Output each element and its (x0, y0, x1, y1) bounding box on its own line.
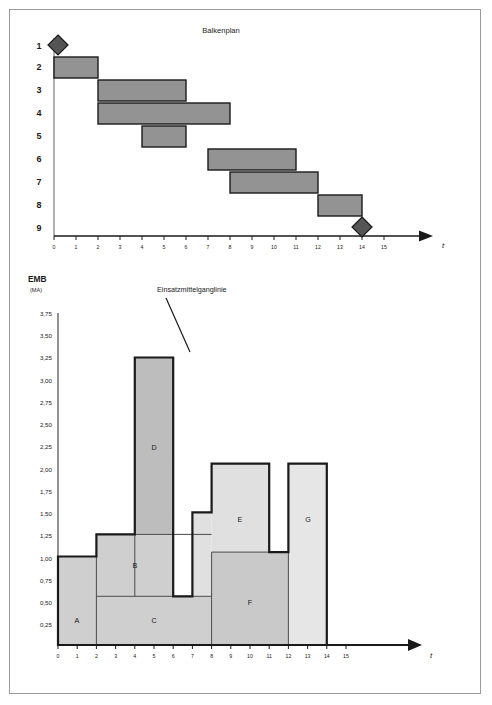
gantt-bar-row-2 (54, 57, 98, 78)
gantt-row-label-1: 1 (36, 41, 41, 51)
resource-y-tick-3_25: 3,25 (40, 354, 53, 361)
gantt-bar-row-5 (142, 126, 186, 147)
resource-x-tick-5: 5 (153, 653, 156, 659)
zone-A-area (58, 557, 96, 646)
gantt-x-tick-3: 3 (119, 244, 122, 250)
gantt-x-tick-14: 14 (359, 244, 365, 250)
zone-label-D: D (151, 443, 156, 452)
resource-x-tick-1: 1 (76, 653, 79, 659)
gantt-bar-row-4 (98, 103, 230, 124)
zone-label-E: E (238, 515, 243, 524)
gantt-end-milestone (352, 217, 372, 237)
resource-y-tick-2_75: 2,75 (40, 399, 53, 406)
gantt-start-milestone (48, 35, 68, 55)
zone-label-C: C (151, 616, 156, 625)
resource-x-tick-7: 7 (191, 653, 194, 659)
resource-x-axis-label: t (430, 651, 433, 660)
resource-x-tick-6: 6 (172, 653, 175, 659)
gantt-row-label-7: 7 (36, 177, 41, 187)
resource-x-tick-15: 15 (343, 653, 349, 659)
gantt-row-label-5: 5 (36, 131, 41, 141)
gantt-x-axis-arrow (419, 231, 433, 242)
resource-svg: EMB (MA) Einsatzmittelganglinie 3,75 3,5… (10, 260, 480, 680)
resource-x-tick-3: 3 (114, 653, 117, 659)
gantt-x-tick-13: 13 (337, 244, 343, 250)
resource-y-tick-2_50: 2,50 (40, 421, 53, 428)
gantt-row-label-2: 2 (36, 62, 41, 72)
gantt-x-tick-7: 7 (207, 244, 210, 250)
gantt-x-tick-0: 0 (53, 244, 56, 250)
gantt-x-tick-9: 9 (251, 244, 254, 250)
gantt-x-tick-5: 5 (163, 244, 166, 250)
gantt-x-tick-4: 4 (141, 244, 144, 250)
gantt-x-tick-11: 11 (293, 244, 298, 250)
gantt-chart: Balkenplan 1 2 3 4 5 6 7 8 9 t (10, 10, 480, 255)
resource-y-tick-3_75: 3,75 (40, 310, 53, 317)
resource-x-tick-11: 11 (267, 653, 272, 659)
gantt-x-axis-label: t (442, 241, 445, 250)
figure-page: Balkenplan 1 2 3 4 5 6 7 8 9 t (0, 0, 492, 705)
resource-x-tick-13: 13 (305, 653, 311, 659)
gantt-x-tick-2: 2 (97, 244, 100, 250)
gantt-bar-row-8 (318, 195, 362, 216)
resource-x-axis-arrow (408, 639, 422, 651)
gantt-row-label-4: 4 (36, 108, 41, 118)
zone-label-G: G (305, 515, 311, 524)
gantt-x-tick-12: 12 (315, 244, 321, 250)
resource-x-tick-12: 12 (286, 653, 292, 659)
gantt-bar-row-6 (208, 149, 296, 170)
gantt-x-tick-8: 8 (229, 244, 232, 250)
gantt-title: Balkenplan (202, 26, 240, 35)
resource-y-tick-1_50: 1,50 (40, 510, 53, 517)
gantt-x-tick-15: 15 (381, 244, 387, 250)
resource-y-tick-2_25: 2,25 (40, 443, 53, 450)
resource-x-tick-4: 4 (133, 653, 136, 659)
resource-x-tick-9: 9 (229, 653, 232, 659)
resource-x-tick-2: 2 (95, 653, 98, 659)
resource-y-axis-unit: (MA) (30, 287, 42, 293)
resource-y-tick-0_75: 0,75 (40, 577, 53, 584)
resource-x-tick-14: 14 (324, 653, 330, 659)
gantt-svg: Balkenplan 1 2 3 4 5 6 7 8 9 t (10, 10, 480, 255)
annotation-leader-line (166, 298, 190, 352)
resource-x-tick-0: 0 (57, 653, 60, 659)
zone-label-A: A (75, 616, 80, 625)
resource-zones (58, 358, 327, 646)
resource-chart: EMB (MA) Einsatzmittelganglinie 3,75 3,5… (10, 260, 480, 680)
resource-y-tick-0_50: 0,50 (40, 599, 53, 606)
gantt-x-tick-6: 6 (185, 244, 188, 250)
resource-y-axis-title: EMB (28, 274, 47, 284)
zone-E-area-low (192, 512, 211, 596)
gantt-x-tick-1: 1 (75, 244, 78, 250)
figure-border: Balkenplan 1 2 3 4 5 6 7 8 9 t (9, 9, 481, 694)
resource-y-tick-1_25: 1,25 (40, 532, 53, 539)
zone-label-F: F (248, 598, 253, 607)
resource-y-tick-2_00: 2,00 (40, 466, 53, 473)
resource-x-tick-8: 8 (210, 653, 213, 659)
gantt-x-tick-10: 10 (271, 244, 277, 250)
gantt-row-label-6: 6 (36, 154, 41, 164)
resource-y-tick-0_25: 0,25 (40, 621, 53, 628)
resource-annotation: Einsatzmittelganglinie (157, 285, 227, 294)
gantt-row-label-3: 3 (36, 85, 41, 95)
resource-y-tick-1_75: 1,75 (40, 488, 53, 495)
resource-x-tick-10: 10 (247, 653, 253, 659)
zone-label-B: B (133, 561, 138, 570)
resource-y-tick-3_50: 3,50 (40, 332, 53, 339)
gantt-row-label-9: 9 (36, 223, 41, 233)
resource-y-tick-1_00: 1,00 (40, 555, 53, 562)
zone-G-area (288, 464, 326, 645)
gantt-bar-row-7 (230, 172, 318, 193)
gantt-row-label-8: 8 (36, 200, 41, 210)
resource-y-tick-3_00: 3,00 (40, 377, 53, 384)
gantt-bar-row-3 (98, 80, 186, 101)
